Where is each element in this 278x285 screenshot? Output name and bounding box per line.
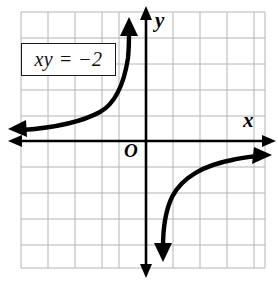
y-axis-label: y (155, 10, 164, 31)
x-axis-label: x (243, 110, 254, 131)
graph-figure: xy = −2 y x O (0, 0, 278, 285)
equation-text: xy = −2 (34, 48, 102, 71)
equation-label-box: xy = −2 (21, 43, 116, 76)
origin-label: O (124, 141, 138, 160)
